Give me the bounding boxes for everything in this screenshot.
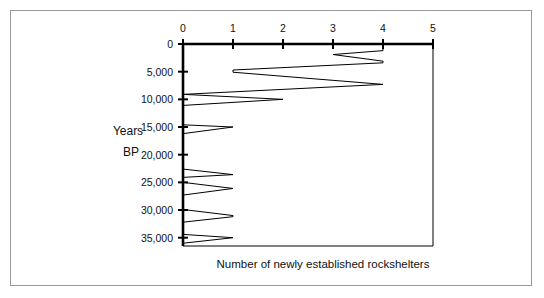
y-axis-label-line-2: BP	[123, 145, 139, 159]
x-axis-tick-label: 1	[230, 22, 236, 34]
x-axis-tick-label: 0	[180, 22, 186, 34]
x-axis-tick-label: 3	[330, 22, 336, 34]
x-axis-label: Number of newly established rockshelters	[217, 258, 430, 270]
x-axis-tick-labels: 012345	[180, 22, 436, 34]
y-axis-tick-label: 10,000	[141, 93, 173, 105]
x-axis-tick-label: 5	[430, 22, 436, 34]
x-axis-tick-label: 4	[380, 22, 386, 34]
y-axis-tick-label: 30,000	[141, 204, 173, 216]
x-axis-tick-label: 2	[280, 22, 286, 34]
y-axis-tick-label: 35,000	[141, 232, 173, 244]
y-axis-tick-label: 5,000	[147, 66, 173, 78]
y-axis-tick-label: 15,000	[141, 121, 173, 133]
y-axis-tick-label: 25,000	[141, 176, 173, 188]
y-axis-tick-labels: 05,00010,00015,00020,00025,00030,00035,0…	[141, 38, 173, 244]
y-axis-tick-label: 20,000	[141, 149, 173, 161]
chart-plot-area: 012345 05,00010,00015,00020,00025,00030,…	[0, 0, 544, 298]
y-axis-tick-label: 0	[167, 38, 173, 50]
y-axis-label-line-1: Years	[113, 124, 143, 138]
chart-canvas: 012345 05,00010,00015,00020,00025,00030,…	[0, 0, 544, 298]
data-series-line	[183, 44, 383, 246]
